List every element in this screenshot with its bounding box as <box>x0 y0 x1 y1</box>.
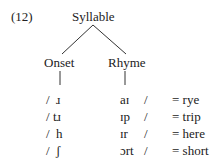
rhyme-slash: / <box>144 93 148 107</box>
tree-branches <box>0 0 221 166</box>
onset-slash: / <box>46 110 50 124</box>
onset-value: ɹ <box>56 93 60 107</box>
gloss: = rye <box>172 93 199 107</box>
node-rhyme: Rhyme <box>108 56 146 70</box>
rhyme-slash: / <box>144 144 148 158</box>
rhyme-slash: / <box>144 127 148 141</box>
onset-slash: / <box>46 144 50 158</box>
node-onset: Onset <box>44 56 74 70</box>
gloss: = trip <box>172 110 201 124</box>
gloss: = short <box>172 144 209 158</box>
rhyme-value: ɪp <box>120 110 130 124</box>
onset-value: tɹ <box>53 110 61 124</box>
onset-slash: / <box>46 127 50 141</box>
rhyme-value: aɪ <box>120 93 129 107</box>
rhyme-slash: / <box>144 110 148 124</box>
onset-value: ʃ <box>56 144 60 158</box>
onset-value: h <box>56 127 63 141</box>
onset-slash: / <box>46 93 50 107</box>
rhyme-value: ɔrt <box>120 144 134 158</box>
gloss: = here <box>172 127 205 141</box>
example-number: (12) <box>11 10 33 24</box>
node-syllable: Syllable <box>72 10 115 24</box>
rhyme-value: ɪr <box>120 127 128 141</box>
